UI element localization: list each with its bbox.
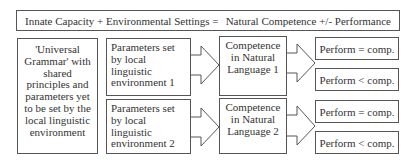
arrow-right-icon [287,44,315,82]
arrow-right-icon [191,46,219,84]
arrow-right-icon [287,106,315,145]
arrows-layer [0,0,417,166]
arrow-right-icon [191,108,219,146]
